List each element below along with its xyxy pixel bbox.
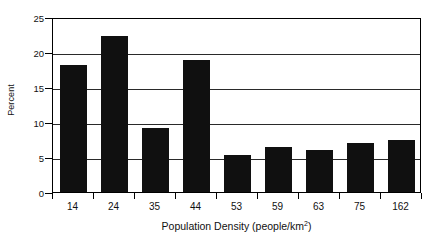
y-axis-tickmark bbox=[45, 193, 52, 194]
bar bbox=[183, 60, 210, 192]
y-axis-tickmark bbox=[45, 123, 52, 124]
bar bbox=[265, 147, 292, 192]
x-axis-tickmark bbox=[52, 193, 53, 199]
bar bbox=[224, 155, 251, 192]
x-axis-tickmark bbox=[421, 193, 422, 199]
x-axis-tick-label: 24 bbox=[108, 201, 119, 212]
y-axis-tick-labels: 0510152025 bbox=[20, 18, 48, 193]
bar bbox=[60, 65, 87, 192]
y-axis-tick-label: 5 bbox=[39, 153, 44, 164]
x-axis-tickmark bbox=[216, 193, 217, 199]
x-axis-tick-label: 14 bbox=[67, 201, 78, 212]
bar bbox=[101, 36, 128, 192]
bar bbox=[142, 128, 169, 192]
bars-layer bbox=[53, 19, 420, 192]
y-axis-tick-label: 15 bbox=[33, 83, 44, 94]
x-axis-tickmark bbox=[380, 193, 381, 199]
x-axis-tick-label: 63 bbox=[313, 201, 324, 212]
y-axis-tick-label: 10 bbox=[33, 118, 44, 129]
y-axis-title-text: Percent bbox=[6, 84, 16, 116]
x-axis-tickmark bbox=[339, 193, 340, 199]
y-axis-tickmark bbox=[45, 88, 52, 89]
y-axis-tick-label: 20 bbox=[33, 48, 44, 59]
x-axis-tick-label: 35 bbox=[149, 201, 160, 212]
x-axis-tick-label: 44 bbox=[190, 201, 201, 212]
bar bbox=[306, 150, 333, 192]
x-axis-title: Population Density (people/km2) bbox=[52, 220, 421, 232]
x-axis-tick-label: 53 bbox=[231, 201, 242, 212]
x-axis-tick-label: 162 bbox=[392, 201, 409, 212]
y-axis-tickmark bbox=[45, 158, 52, 159]
x-axis-tickmark bbox=[257, 193, 258, 199]
x-axis-tick-label: 59 bbox=[272, 201, 283, 212]
x-axis-tickmark bbox=[298, 193, 299, 199]
x-axis-tickmark bbox=[93, 193, 94, 199]
y-axis-title: Percent bbox=[2, 0, 20, 200]
bar bbox=[347, 143, 374, 192]
x-axis-tickmark bbox=[134, 193, 135, 199]
y-axis-tick-label: 0 bbox=[39, 188, 44, 199]
x-axis-title-base: Population Density (people/km bbox=[162, 220, 304, 232]
y-axis-tick-label: 25 bbox=[33, 13, 44, 24]
y-axis-tickmark bbox=[45, 53, 52, 54]
x-axis-tickmark bbox=[175, 193, 176, 199]
y-axis-tickmark bbox=[45, 18, 52, 19]
bar bbox=[388, 140, 415, 192]
plot-area bbox=[52, 18, 421, 193]
x-axis-title-tail: ) bbox=[308, 220, 312, 232]
bar-chart: Percent 0510152025 1424354453596375162 P… bbox=[0, 0, 444, 243]
x-axis-tick-label: 75 bbox=[354, 201, 365, 212]
